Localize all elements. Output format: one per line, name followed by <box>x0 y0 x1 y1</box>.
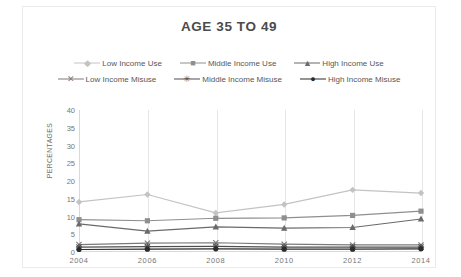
x-axis-tick: 2014 <box>411 256 430 265</box>
series-1 <box>76 187 424 216</box>
y-axis-tick: 35 <box>67 123 75 132</box>
chart-legend: ◆Low Income Use■Middle Income Use▲High I… <box>23 55 435 87</box>
legend-symbol-triangle-icon: ▲ <box>294 58 320 68</box>
legend-row-misuse: ✕Low Income Misuse✳Middle Income Misuse●… <box>23 71 435 87</box>
data-point-circle <box>145 247 150 252</box>
legend-symbol-diamond-icon: ◆ <box>74 58 100 68</box>
legend-symbol-x-icon: ✕ <box>58 74 84 84</box>
legend-marker-triangle-icon: ▲ <box>303 59 312 68</box>
plot-wrapper <box>79 110 421 252</box>
data-point-square <box>418 209 423 214</box>
data-point-diamond <box>213 210 219 216</box>
data-point-diamond <box>349 187 355 193</box>
legend-item-label: Middle Income Use <box>208 59 276 68</box>
legend-item[interactable]: ✕Low Income Misuse <box>58 74 157 84</box>
data-point-diamond <box>281 201 287 207</box>
data-point-circle <box>350 247 355 252</box>
x-axis-tick: 2012 <box>343 256 362 265</box>
legend-item-label: Low Income Use <box>102 59 162 68</box>
legend-symbol-asterisk-icon: ✳ <box>174 74 200 84</box>
legend-item[interactable]: ●High Income Misuse <box>300 74 400 84</box>
data-point-square <box>350 213 355 218</box>
y-axis-tick: 10 <box>67 212 75 221</box>
legend-item[interactable]: ✳Middle Income Misuse <box>174 74 282 84</box>
series-line <box>79 190 421 213</box>
series-line <box>79 211 421 221</box>
x-axis-labels: 200420062008201020122014 <box>79 256 421 270</box>
legend-marker-circle-icon: ● <box>310 75 315 84</box>
chart-container: AGE 35 TO 49 ◆Low Income Use■Middle Inco… <box>22 6 436 268</box>
x-axis-tick: 2004 <box>69 256 88 265</box>
series-layer <box>79 110 421 252</box>
data-point-square <box>213 216 218 221</box>
data-point-diamond <box>418 190 424 196</box>
legend-marker-square-icon: ■ <box>190 59 195 68</box>
series-2 <box>76 209 423 224</box>
y-axis-tick: 40 <box>67 106 75 115</box>
series-line <box>79 243 421 245</box>
y-axis-tick: 5 <box>71 230 75 239</box>
legend-symbol-square-icon: ■ <box>180 58 206 68</box>
data-point-square <box>145 218 150 223</box>
legend-row-use: ◆Low Income Use■Middle Income Use▲High I… <box>23 55 435 71</box>
data-point-diamond <box>144 191 150 197</box>
legend-symbol-circle-icon: ● <box>300 74 326 84</box>
y-axis-labels: 0510152025303540 <box>47 104 75 256</box>
legend-item-label: High Income Use <box>322 59 383 68</box>
y-axis-tick: 25 <box>67 159 75 168</box>
x-axis-tick: 2010 <box>275 256 294 265</box>
legend-marker-asterisk-icon: ✳ <box>183 75 191 84</box>
legend-item-label: Middle Income Misuse <box>202 75 282 84</box>
chart-title: AGE 35 TO 49 <box>23 19 435 34</box>
data-point-circle <box>76 247 81 252</box>
data-point-circle <box>213 246 218 251</box>
legend-marker-diamond-icon: ◆ <box>84 59 91 68</box>
data-point-circle <box>282 247 287 252</box>
legend-marker-x-icon: ✕ <box>67 75 75 84</box>
data-point-diamond <box>76 199 82 205</box>
legend-item-label: Low Income Misuse <box>86 75 157 84</box>
data-point-triangle <box>418 216 424 222</box>
series-line <box>79 249 421 250</box>
x-axis-tick: 2006 <box>138 256 157 265</box>
legend-item[interactable]: ■Middle Income Use <box>180 58 276 68</box>
legend-item[interactable]: ◆Low Income Use <box>74 58 162 68</box>
data-point-circle <box>418 246 423 251</box>
data-point-square <box>282 215 287 220</box>
legend-item[interactable]: ▲High Income Use <box>294 58 383 68</box>
y-axis-tick: 20 <box>67 177 75 186</box>
y-axis-tick: 15 <box>67 194 75 203</box>
legend-item-label: High Income Misuse <box>328 75 400 84</box>
y-axis-tick: 30 <box>67 141 75 150</box>
x-axis-tick: 2008 <box>206 256 225 265</box>
vertical-gridline <box>422 110 423 251</box>
series-line <box>79 246 421 247</box>
